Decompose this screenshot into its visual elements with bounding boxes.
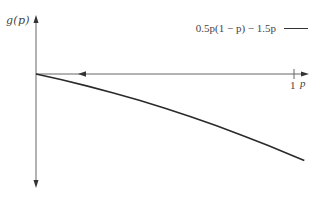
y-axis-down-arrow-icon bbox=[34, 180, 39, 188]
phase-line-chart: g(p) 1 p 0.5p(1 − p) − 1.5p bbox=[0, 0, 318, 200]
flow-left-arrow-icon bbox=[78, 71, 86, 76]
x-axis-label: p bbox=[300, 77, 306, 89]
g-curve bbox=[36, 74, 304, 161]
legend: 0.5p(1 − p) − 1.5p bbox=[196, 22, 308, 34]
legend-label: 0.5p(1 − p) − 1.5p bbox=[196, 22, 276, 34]
x-tick-label-1: 1 bbox=[290, 79, 296, 91]
legend-line-swatch bbox=[284, 28, 308, 29]
y-axis-up-arrow-icon bbox=[34, 15, 39, 23]
x-axis-right-arrow-icon bbox=[301, 72, 309, 77]
y-axis-label: g(p) bbox=[6, 14, 30, 27]
